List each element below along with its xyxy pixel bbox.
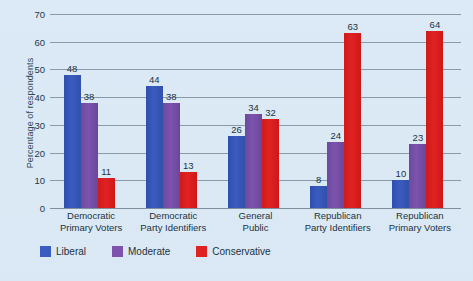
bar-group: 102364 bbox=[392, 14, 443, 208]
x-axis-label: DemocraticParty Identifiers bbox=[126, 210, 220, 233]
x-axis-label: DemocraticPrimary Voters bbox=[44, 210, 138, 233]
bar-value-label: 63 bbox=[347, 21, 358, 32]
bar-value-label: 48 bbox=[67, 63, 78, 74]
x-axis-label-line: Party Identifiers bbox=[291, 222, 385, 234]
legend-item-moderate[interactable]: Moderate bbox=[112, 246, 170, 257]
x-axis-label-line: Democratic bbox=[126, 210, 220, 222]
bar-conservative[interactable]: 11 bbox=[98, 178, 115, 208]
legend-label: Moderate bbox=[128, 246, 170, 257]
x-axis-label: RepublicanParty Identifiers bbox=[291, 210, 385, 233]
legend-swatch-icon bbox=[40, 246, 51, 257]
bar-liberal[interactable]: 48 bbox=[64, 75, 81, 208]
bar-moderate[interactable]: 23 bbox=[409, 144, 426, 208]
bar-value-label: 13 bbox=[183, 160, 194, 171]
x-axis-category-labels: DemocraticPrimary VotersDemocraticParty … bbox=[50, 210, 461, 240]
bar-value-label: 64 bbox=[430, 19, 441, 30]
legend-label: Liberal bbox=[56, 246, 86, 257]
bar-liberal[interactable]: 10 bbox=[392, 180, 409, 208]
y-tick-label-30: 30 bbox=[34, 119, 45, 130]
bar-value-label: 10 bbox=[396, 168, 407, 179]
legend-label: Conservative bbox=[212, 246, 270, 257]
legend-swatch-icon bbox=[196, 246, 207, 257]
x-axis-label-line: Democratic bbox=[44, 210, 138, 222]
gridline-0: 0 bbox=[50, 208, 461, 209]
bar-liberal[interactable]: 26 bbox=[228, 136, 245, 208]
bar-moderate[interactable]: 24 bbox=[327, 142, 344, 209]
bar-liberal[interactable]: 8 bbox=[310, 186, 327, 208]
bar-group: 263432 bbox=[228, 14, 279, 208]
legend-item-conservative[interactable]: Conservative bbox=[196, 246, 270, 257]
bar-value-label: 24 bbox=[330, 130, 341, 141]
x-axis-label-line: Republican bbox=[291, 210, 385, 222]
y-tick-label-20: 20 bbox=[34, 147, 45, 158]
bars-layer: 48381144381326343282463102364 bbox=[50, 14, 461, 208]
x-axis-label-line: Republican bbox=[373, 210, 467, 222]
y-tick-label-60: 60 bbox=[34, 36, 45, 47]
bar-value-label: 23 bbox=[413, 132, 424, 143]
bar-moderate[interactable]: 34 bbox=[245, 114, 262, 208]
legend: LiberalModerateConservative bbox=[40, 246, 271, 257]
x-axis-label-line: Primary Voters bbox=[373, 222, 467, 234]
bar-value-label: 8 bbox=[316, 174, 321, 185]
bar-value-label: 11 bbox=[101, 166, 111, 177]
bar-chart: Percentage of respondents 01020304050607… bbox=[0, 0, 473, 281]
bar-moderate[interactable]: 38 bbox=[81, 103, 98, 208]
x-axis-label-line: Public bbox=[208, 222, 302, 234]
legend-item-liberal[interactable]: Liberal bbox=[40, 246, 86, 257]
bar-conservative[interactable]: 32 bbox=[262, 119, 279, 208]
bar-value-label: 38 bbox=[166, 91, 177, 102]
bar-conservative[interactable]: 64 bbox=[426, 31, 443, 208]
y-tick-label-40: 40 bbox=[34, 92, 45, 103]
legend-swatch-icon bbox=[112, 246, 123, 257]
bar-group: 483811 bbox=[64, 14, 115, 208]
bar-value-label: 32 bbox=[265, 107, 276, 118]
bar-liberal[interactable]: 44 bbox=[146, 86, 163, 208]
x-axis-label: RepublicanPrimary Voters bbox=[373, 210, 467, 233]
x-axis-label-line: Party Identifiers bbox=[126, 222, 220, 234]
y-tick-label-10: 10 bbox=[34, 175, 45, 186]
bar-value-label: 44 bbox=[149, 74, 160, 85]
bar-value-label: 34 bbox=[248, 102, 259, 113]
bar-group: 443813 bbox=[146, 14, 197, 208]
bar-group: 82463 bbox=[310, 14, 361, 208]
x-axis-label-line: Primary Voters bbox=[44, 222, 138, 234]
x-axis-label-line: General bbox=[208, 210, 302, 222]
bar-value-label: 26 bbox=[231, 124, 242, 135]
bar-moderate[interactable]: 38 bbox=[163, 103, 180, 208]
y-tick-label-70: 70 bbox=[34, 9, 45, 20]
bar-value-label: 38 bbox=[84, 91, 95, 102]
x-axis-label: GeneralPublic bbox=[208, 210, 302, 233]
bar-conservative[interactable]: 63 bbox=[344, 33, 361, 208]
y-tick-label-50: 50 bbox=[34, 64, 45, 75]
bar-conservative[interactable]: 13 bbox=[180, 172, 197, 208]
